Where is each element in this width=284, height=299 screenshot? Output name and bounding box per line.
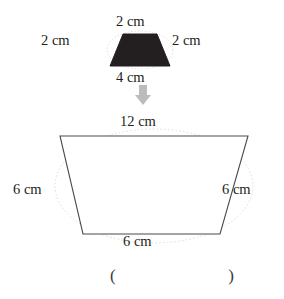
small-trapezoid-right-label: 2 cm (172, 33, 201, 48)
down-arrow-icon (135, 85, 151, 105)
answer-close-paren: ) (228, 266, 234, 286)
small-trapezoid-left-label: 2 cm (41, 33, 70, 48)
small-trapezoid-bottom-label: 4 cm (116, 70, 145, 85)
large-trapezoid-right-label: 6 cm (222, 182, 251, 197)
large-trapezoid-top-label: 12 cm (120, 114, 156, 129)
large-trapezoid-shape (60, 136, 248, 234)
answer-blank[interactable]: ( ) (110, 266, 234, 292)
small-trapezoid-top-label: 2 cm (116, 14, 145, 29)
small-trapezoid-shape (110, 34, 170, 66)
geometry-figure: 2 cm 2 cm 2 cm 4 cm 12 cm 6 cm 6 cm 6 cm… (0, 0, 284, 299)
large-trapezoid-bottom-label: 6 cm (123, 234, 152, 249)
answer-open-paren: ( (110, 266, 116, 286)
large-trapezoid-left-label: 6 cm (13, 182, 42, 197)
